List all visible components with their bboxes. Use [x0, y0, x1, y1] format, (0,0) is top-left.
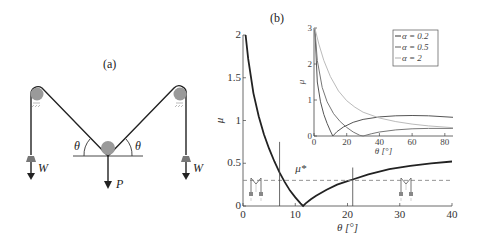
x-axis-label: θ [°]	[375, 146, 393, 156]
x-tick-label: 20	[342, 137, 352, 147]
x-tick-label: 40	[447, 208, 459, 220]
y-axis-label: μ	[296, 79, 306, 85]
mini-diagram-left-icon	[249, 178, 263, 201]
y-tick-label: 0	[236, 199, 242, 211]
y-tick-label: 1	[236, 114, 242, 126]
x-tick-label: 30	[394, 208, 406, 220]
chart-b: (b) 01020304000.511.52θ [°]μμ* 020406080…	[0, 0, 479, 242]
panel-b-label: (b)	[270, 11, 284, 25]
y-tick-label: 1	[308, 95, 313, 105]
y-tick-label: 1.5	[227, 71, 241, 83]
legend-label: α = 0.2	[402, 31, 429, 41]
legend: α = 0.2α = 0.5α = 2	[393, 30, 438, 66]
y-tick-label: 2	[236, 28, 242, 40]
y-axis-label: μ	[213, 117, 225, 124]
x-tick-label: 20	[342, 208, 354, 220]
x-tick-label: 0	[312, 137, 317, 147]
x-tick-label: 0	[240, 208, 246, 220]
figure: (a) θ θ P W W (b) 01020304000.511.52	[0, 0, 479, 242]
y-tick-label: 2	[308, 59, 313, 69]
y-tick-label: 0	[308, 131, 313, 141]
x-tick-label: 80	[440, 137, 450, 147]
x-tick-label: 60	[408, 137, 418, 147]
legend-label: α = 0.5	[402, 42, 429, 52]
y-tick-label: 0.5	[227, 156, 241, 168]
y-tick-label: 3	[308, 23, 313, 33]
x-axis-label: θ [°]	[337, 221, 358, 233]
inset-axes: 0204060800123θ [°]μα = 0.2α = 0.5α = 2	[296, 23, 453, 156]
legend-label: α = 2	[402, 53, 422, 63]
x-tick-label: 10	[290, 208, 302, 220]
mu-star-label: μ*	[294, 162, 307, 174]
mini-diagram-right-icon	[399, 178, 413, 201]
